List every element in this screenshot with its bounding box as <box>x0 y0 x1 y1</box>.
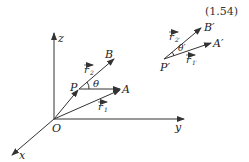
point-a-prime-label: A′ <box>212 37 224 50</box>
svg-text:1: 1 <box>104 106 108 113</box>
equation-number: (1.54) <box>205 5 238 18</box>
vector-diagram: (1.54) z y x O θ P A B r 2 r 1 θ′ B′ A′ … <box>0 0 249 162</box>
point-p-prime-label: P′ <box>159 61 170 74</box>
theta-label: θ <box>93 78 99 89</box>
svg-text:2′: 2′ <box>174 36 181 43</box>
point-p-label: P <box>69 81 78 94</box>
point-b-label: B <box>104 48 113 61</box>
origin-label: O <box>52 122 61 135</box>
y-label: y <box>174 121 182 134</box>
z-label: z <box>57 32 64 45</box>
point-b-prime-label: B′ <box>203 21 215 34</box>
angle-arc-theta-prime <box>172 52 174 56</box>
r2-prime-label: r 2′ <box>169 31 181 43</box>
vector-r1 <box>54 90 120 119</box>
angle-arc-theta <box>87 82 89 89</box>
svg-text:2: 2 <box>89 69 94 76</box>
r1-prime-label: r 1′ <box>186 54 198 66</box>
theta-prime-label: θ′ <box>178 43 185 53</box>
svg-text:1′: 1′ <box>192 59 198 66</box>
x-label: x <box>19 149 26 162</box>
point-a-label: A <box>121 83 130 96</box>
r2-label: r 2 <box>84 64 94 76</box>
r1-label: r 1 <box>98 101 108 113</box>
vector-op <box>54 90 78 119</box>
